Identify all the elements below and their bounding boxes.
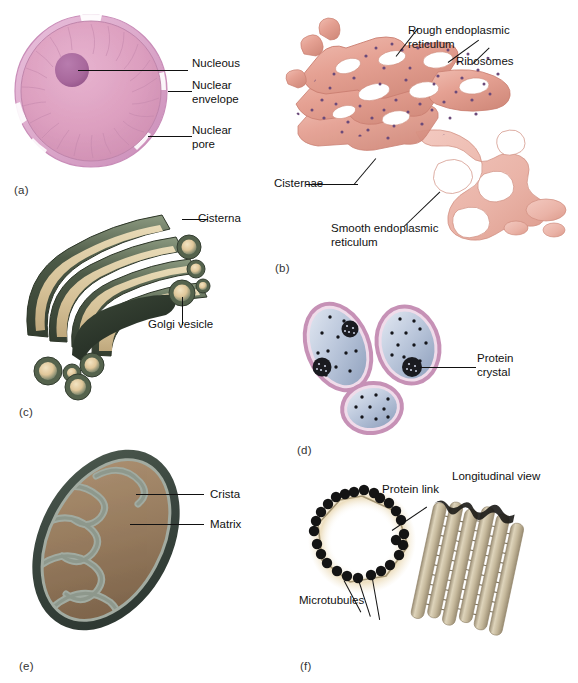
panel-label-d: (d) <box>297 444 312 456</box>
label-nucleolus: Nucleous <box>192 57 240 71</box>
leader-protein-crystal <box>420 367 476 368</box>
label-cisternae: Cisternae <box>274 177 323 191</box>
leader-matrix <box>130 524 204 525</box>
centriole-cross-section <box>308 485 416 594</box>
label-smooth-er: Smooth endoplasmic reticulum <box>331 222 438 249</box>
label-rough-er: Rough endoplasmic reticulum <box>408 24 510 51</box>
label-protein-link: Protein link <box>382 483 439 497</box>
golgi-vesicles-left <box>34 353 104 400</box>
organelle-figure-plate: Nucleous Nuclear envelope Nuclear pore (… <box>0 0 578 683</box>
smooth-er-network <box>416 130 566 241</box>
panel-label-c: (c) <box>19 406 33 418</box>
leader-nucleolus <box>78 70 188 71</box>
panel-e-mitochondrion <box>18 448 218 638</box>
panel-label-a: (a) <box>14 184 29 196</box>
label-protein-crystal: Protein crystal <box>477 352 513 379</box>
label-nuclear-pore: Nuclear pore <box>192 124 232 151</box>
leader-crista <box>136 494 204 495</box>
panel-label-e: (e) <box>19 660 34 672</box>
panel-label-f: (f) <box>300 660 311 672</box>
label-longitudinal-view: Longitudinal view <box>452 470 540 484</box>
mitochondrion-drawing <box>18 448 218 638</box>
golgi-drawing <box>10 205 210 400</box>
protein-crystal-2 <box>402 357 422 377</box>
leader-pore <box>148 136 192 137</box>
leader-envelope <box>168 91 192 92</box>
label-ribosomes: Ribosomes <box>456 55 514 69</box>
label-crista: Crista <box>210 488 240 502</box>
label-nuclear-envelope: Nuclear envelope <box>192 79 239 106</box>
panel-c-golgi-apparatus <box>10 205 210 400</box>
label-microtubules: Microtubules <box>299 594 364 608</box>
label-golgi-vesicle: Golgi vesicle <box>148 318 213 332</box>
panel-d-peroxisomes <box>300 295 460 435</box>
peroxisome-drawing <box>300 295 460 435</box>
nucleus-drawing <box>8 6 188 181</box>
panel-a-nucleus <box>8 6 188 181</box>
peroxisome-2 <box>366 297 450 393</box>
panel-label-b: (b) <box>275 262 290 274</box>
label-matrix: Matrix <box>210 518 241 532</box>
centriole-longitudinal <box>410 492 527 636</box>
label-cisterna: Cisterna <box>198 212 241 226</box>
